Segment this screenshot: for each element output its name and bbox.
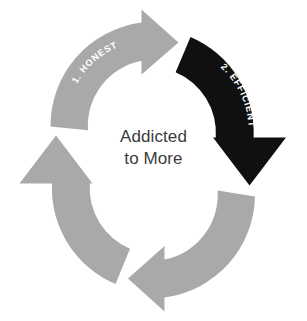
cycle-arrow-step-3-shape: [128, 191, 255, 312]
cycle-diagram-svg: 1. HONEST 2. EFFICIENT: [0, 0, 307, 321]
cycle-arrow-step-4-shape: [20, 136, 131, 285]
cycle-arrow-step-2-shape: [176, 37, 286, 186]
cycle-diagram: 1. HONEST 2. EFFICIENT Addicted to More: [0, 0, 307, 321]
cycle-arrow-step-1[interactable]: 1. HONEST: [50, 10, 178, 131]
cycle-arrow-step-2[interactable]: 2. EFFICIENT: [176, 37, 286, 186]
cycle-arrow-step-4[interactable]: [20, 136, 131, 285]
cycle-arrow-step-1-shape: [50, 10, 178, 131]
cycle-arrow-step-3[interactable]: [128, 191, 255, 312]
